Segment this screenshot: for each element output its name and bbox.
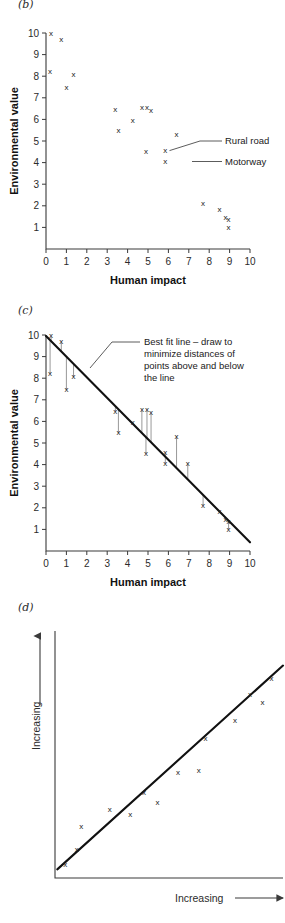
chart-b-svg: 10 9 8 7 6 5 4 3 2 1	[0, 0, 285, 295]
datapoint-c-16: x	[201, 501, 205, 510]
y-tick-6: 6	[33, 416, 39, 427]
y-tick-10: 10	[28, 28, 40, 39]
datapoint-c-13: x	[163, 459, 167, 468]
panel-b: (b) 10 9 8 7 6	[0, 0, 285, 295]
datapoint-c-7: x	[131, 418, 135, 427]
datapoint-d-11: x	[248, 690, 252, 699]
x-tick-6: 6	[166, 256, 172, 267]
datapoint-d-10: x	[233, 716, 237, 725]
chart-b-xlabel: Human impact	[110, 274, 186, 286]
x-tick-5: 5	[145, 558, 151, 569]
y-tick-9: 9	[33, 49, 39, 60]
y-tick-6: 6	[33, 114, 39, 125]
y-tick-7: 7	[33, 92, 39, 103]
chart-b-y-ticks	[42, 33, 46, 227]
y-tick-9: 9	[33, 351, 39, 362]
datapoint-b-6: x	[116, 126, 120, 135]
y-tick-5: 5	[33, 438, 39, 449]
annotation-bestfit-line-2: minimize distances of	[144, 348, 235, 359]
panel-d: (d) Increasing Increasing xxxxxxx	[0, 590, 285, 923]
chart-c-x-ticks	[46, 551, 250, 555]
y-tick-5: 5	[33, 136, 39, 147]
datapoint-d-5: x	[142, 788, 146, 797]
y-tick-8: 8	[33, 71, 39, 82]
chart-c-y-ticklabels: 10 9 8 7 6 5 4 3 2 1	[28, 330, 40, 535]
x-tick-8: 8	[206, 256, 212, 267]
chart-b-x-ticks	[46, 249, 250, 253]
chart-b-x-ticklabels: 0 1 2 3 4 5 6 7 8 9 10	[43, 256, 256, 267]
y-tick-3: 3	[33, 481, 39, 492]
x-tick-1: 1	[64, 256, 70, 267]
x-tick-2: 2	[84, 558, 90, 569]
y-tick-2: 2	[33, 502, 39, 513]
annotation-bestfit-line-4: the line	[144, 372, 175, 383]
datapoint-c-12: x	[163, 448, 167, 457]
y-tick-3: 3	[33, 179, 39, 190]
datapoint-c-17: x	[217, 507, 221, 516]
datapoint-d-4: x	[128, 810, 132, 819]
datapoint-c-4: x	[64, 385, 68, 394]
x-tick-8: 8	[206, 558, 212, 569]
datapoint-d-13: x	[270, 674, 274, 683]
y-tick-1: 1	[33, 524, 39, 535]
chart-c-xlabel: Human impact	[110, 576, 186, 588]
chart-c-x-ticklabels: 0 1 2 3 4 5 6 7 8 9 10	[43, 558, 256, 569]
x-tick-1: 1	[64, 558, 70, 569]
chart-d-xlabel: Increasing	[175, 892, 224, 904]
datapoint-d-8: x	[197, 766, 201, 775]
datapoint-c-11: x	[144, 449, 148, 458]
datapoint-d-1: x	[75, 845, 79, 854]
datapoint-d-2: x	[79, 822, 83, 831]
y-tick-4: 4	[33, 459, 39, 470]
annotation-bestfit-line-1: Best fit line – draw to	[144, 336, 232, 347]
datapoint-b-14: x	[175, 130, 179, 139]
datapoint-d-3: x	[108, 805, 112, 814]
chart-d-svg: Increasing Increasing xxxxxxxxxxxxxx	[0, 590, 285, 923]
datapoint-b-0: x	[49, 29, 53, 38]
datapoint-c-10: x	[149, 408, 153, 417]
datapoint-c-20: x	[227, 525, 231, 534]
chart-b-y-ticklabels: 10 9 8 7 6 5 4 3 2 1	[28, 28, 40, 233]
datapoint-b-8: x	[140, 103, 144, 112]
chart-c-canvas: 10 9 8 7 6 5 4 3 2 1	[0, 295, 285, 590]
x-tick-4: 4	[125, 256, 131, 267]
datapoint-c-0: x	[49, 331, 53, 340]
datapoint-c-14: x	[175, 432, 179, 441]
x-tick-0: 0	[43, 256, 49, 267]
datapoint-b-10: x	[149, 106, 153, 115]
y-tick-8: 8	[33, 373, 39, 384]
datapoint-b-16: x	[217, 205, 221, 214]
panel-c: (c) 10 9 8 7 6 5	[0, 295, 285, 590]
x-tick-10: 10	[244, 256, 256, 267]
x-tick-3: 3	[104, 558, 110, 569]
x-tick-6: 6	[166, 558, 172, 569]
datapoint-b-1: x	[59, 35, 63, 44]
datapoint-c-5: x	[113, 407, 117, 416]
datapoint-b-5: x	[113, 105, 117, 114]
rural-road-leader-line	[170, 141, 223, 151]
chart-b-leaders	[170, 141, 223, 162]
chart-b-datapoints: xxxxxxxxxxxxxxxxxxxx	[48, 29, 231, 231]
datapoint-b-15: x	[201, 199, 205, 208]
datapoint-c-2: x	[48, 369, 52, 378]
y-tick-7: 7	[33, 394, 39, 405]
x-tick-7: 7	[186, 558, 192, 569]
chart-d-ylabel: Increasing	[30, 701, 42, 750]
annotation-motorway: Motorway	[225, 156, 266, 167]
datapoint-b-7: x	[131, 116, 135, 125]
x-tick-5: 5	[145, 256, 151, 267]
datapoint-c-8: x	[140, 405, 144, 414]
datapoint-b-11: x	[144, 147, 148, 156]
x-tick-4: 4	[125, 558, 131, 569]
datapoint-b-12: x	[163, 146, 167, 155]
chart-c-ylabel: Environmental value	[8, 389, 20, 497]
datapoint-b-3: x	[72, 70, 76, 79]
chart-c-svg: 10 9 8 7 6 5 4 3 2 1	[0, 295, 285, 590]
y-tick-4: 4	[33, 157, 39, 168]
x-tick-9: 9	[227, 256, 233, 267]
datapoint-d-0: x	[63, 860, 67, 869]
datapoint-d-6: x	[156, 798, 160, 807]
x-tick-2: 2	[84, 256, 90, 267]
y-tick-1: 1	[33, 222, 39, 233]
x-tick-7: 7	[186, 256, 192, 267]
